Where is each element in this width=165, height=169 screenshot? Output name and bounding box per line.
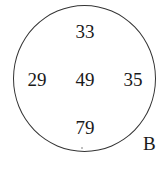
number-left: 29 [17, 70, 57, 89]
number-bottom: 79 [65, 118, 105, 137]
stray-dot [81, 147, 83, 149]
number-top: 33 [65, 22, 105, 41]
number-right: 35 [113, 70, 153, 89]
number-center: 49 [65, 70, 105, 89]
figure-label: B [143, 134, 156, 153]
